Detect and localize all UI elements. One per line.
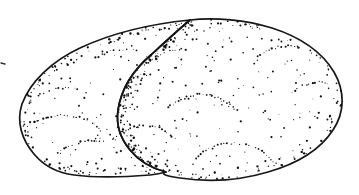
- stipple-dot: [146, 56, 147, 57]
- stipple-dot: [214, 171, 216, 173]
- stipple-dot: [141, 78, 143, 80]
- stipple-dot: [119, 109, 120, 110]
- stipple-dot: [143, 73, 145, 75]
- stipple-dot: [191, 177, 192, 178]
- stipple-dot: [124, 132, 125, 133]
- stipple-dot: [126, 94, 127, 95]
- stipple-dot: [253, 63, 255, 65]
- stipple-dot: [135, 90, 136, 91]
- stipple-dot: [151, 156, 153, 158]
- stipple-dot: [42, 82, 44, 84]
- stipple-dot: [175, 50, 176, 51]
- stipple-dot: [120, 120, 122, 122]
- stipple-dot: [116, 151, 118, 153]
- stipple-dot: [166, 165, 168, 167]
- stipple-dot: [150, 152, 151, 153]
- stipple-dot: [285, 46, 287, 48]
- stipple-dot: [136, 64, 138, 66]
- stipple-dot: [170, 40, 171, 41]
- stipple-dot: [294, 90, 296, 92]
- stipple-dot: [123, 96, 125, 98]
- stipple-dot: [67, 55, 69, 57]
- stipple-dot: [331, 118, 332, 119]
- stipple-dot: [263, 152, 265, 154]
- stipple-dot: [330, 127, 331, 128]
- stipple-dot: [29, 101, 30, 102]
- stipple-dot: [75, 88, 76, 89]
- stipple-dot: [133, 34, 134, 35]
- stipple-dot: [65, 87, 66, 88]
- stipple-dot: [120, 116, 122, 118]
- stipple-dot: [205, 178, 206, 179]
- stipple-dot: [311, 52, 312, 53]
- stipple-dot: [126, 49, 128, 51]
- stipple-dot: [79, 174, 81, 176]
- stipple-dot: [96, 117, 97, 118]
- stipple-dot: [248, 107, 249, 108]
- stipple-dot: [210, 23, 212, 25]
- stipple-dot: [211, 95, 213, 97]
- stipple-dot: [246, 37, 248, 39]
- stipple-dot: [192, 38, 194, 40]
- stipple-dot: [257, 55, 259, 57]
- stipple-dot: [20, 121, 21, 122]
- stipple-dot: [122, 128, 123, 129]
- stipple-dot: [258, 148, 260, 150]
- stipple-dot: [145, 27, 147, 29]
- stipple-dot: [316, 117, 318, 119]
- stipple-dot: [175, 33, 177, 35]
- stipple-dot: [160, 54, 161, 55]
- stipple-dot: [127, 121, 128, 122]
- stipple-dot: [180, 172, 181, 173]
- stipple-dot: [137, 70, 138, 71]
- stipple-dot: [192, 163, 194, 165]
- stipple-dot: [227, 20, 229, 22]
- stipple-dot: [145, 29, 146, 30]
- stipple-dot: [212, 56, 214, 58]
- stipple-dot: [297, 46, 299, 48]
- stipple-dot: [239, 25, 241, 27]
- stipple-dot: [236, 109, 238, 111]
- stipple-dot: [181, 174, 182, 175]
- stipple-dot: [164, 27, 166, 29]
- stipple-dot: [278, 39, 280, 41]
- stipple-dot: [44, 73, 45, 74]
- stipple-dot: [223, 143, 224, 144]
- stipple-dot: [57, 115, 58, 116]
- stipple-dot: [295, 82, 297, 84]
- stipple-dot: [168, 46, 170, 48]
- stipple-dot: [38, 79, 40, 81]
- stipple-dot: [126, 95, 127, 96]
- stipple-dot: [158, 153, 160, 155]
- stipple-dot: [125, 111, 126, 112]
- stipple-dot: [168, 28, 170, 30]
- stipple-dot: [310, 147, 312, 149]
- stipple-dot: [223, 40, 224, 41]
- stipple-dot: [119, 104, 121, 106]
- stipple-dot: [135, 154, 136, 155]
- stipple-dot: [158, 69, 160, 71]
- stipple-dot: [27, 109, 28, 110]
- stipple-dot: [127, 145, 129, 147]
- stipple-dot: [75, 149, 77, 151]
- stipple-dot: [245, 143, 247, 145]
- stipple-dot: [328, 68, 330, 70]
- stipple-dot: [285, 64, 286, 65]
- stipple-dot: [106, 129, 107, 130]
- stipple-dot: [252, 28, 253, 29]
- stipple-dot: [186, 120, 187, 121]
- stipple-dot: [80, 170, 82, 172]
- stipple-dot: [70, 59, 72, 61]
- stipple-dot: [135, 76, 136, 77]
- stipple-dot: [270, 159, 272, 161]
- stipple-dot: [233, 95, 235, 97]
- stipple-dot: [221, 174, 222, 175]
- stipple-dot: [175, 138, 176, 139]
- stipple-dot: [165, 163, 167, 165]
- stipple-dot: [318, 112, 320, 114]
- stipple-dot: [337, 101, 339, 103]
- stipple-dot: [226, 142, 228, 144]
- stipple-dot: [136, 127, 137, 128]
- stipple-dot: [128, 88, 129, 89]
- stipple-dot: [81, 55, 83, 57]
